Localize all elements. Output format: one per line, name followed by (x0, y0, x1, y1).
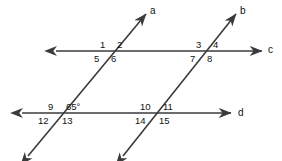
line-label-c: c (268, 45, 273, 55)
line-label-b: b (240, 6, 246, 16)
angle-number-11: 11 (163, 102, 173, 112)
angle-number-8: 8 (207, 54, 212, 64)
geometry-figure-svg (0, 0, 282, 161)
angle-number-12: 12 (38, 116, 49, 126)
angle-number-15: 15 (159, 116, 170, 126)
angle-number-2: 2 (117, 40, 122, 50)
angle-number-9: 9 (48, 102, 53, 112)
angle-number-4: 4 (213, 40, 218, 50)
lines-group (22, 14, 262, 156)
angle-number-7: 7 (190, 54, 195, 64)
line-a (28, 14, 146, 156)
angle-number-10: 10 (140, 102, 151, 112)
line-label-d: d (238, 108, 244, 118)
angle-number-6: 6 (111, 54, 116, 64)
angle-number-14: 14 (135, 116, 146, 126)
angle-measure-65-degrees: 65° (66, 102, 80, 112)
line-b (123, 14, 236, 156)
angle-number-1: 1 (100, 40, 105, 50)
angle-number-5: 5 (94, 54, 99, 64)
angle-number-3: 3 (196, 40, 201, 50)
line-label-a: a (150, 6, 156, 16)
diagram-canvas: abcd12563478912131011141565° (0, 0, 282, 161)
angle-number-13: 13 (62, 116, 73, 126)
